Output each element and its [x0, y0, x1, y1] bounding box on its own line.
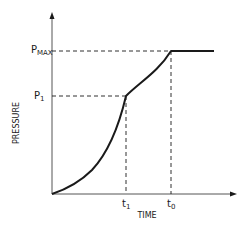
- t1-label: t1: [122, 198, 130, 211]
- x-axis-arrow-icon: [230, 192, 237, 197]
- pmax-label: PMAX: [31, 44, 53, 57]
- x-axis-title: TIME: [136, 211, 156, 220]
- y-axis-title: PRESSURE: [12, 102, 21, 144]
- t0-label: t0: [167, 198, 175, 211]
- p1-label: P1: [34, 90, 45, 103]
- pressure-curve: [52, 51, 214, 194]
- y-axis-arrow-icon: [50, 12, 55, 19]
- pressure-time-chart: PMAX P1 t1 t0 TIME PRESSURE: [0, 0, 243, 228]
